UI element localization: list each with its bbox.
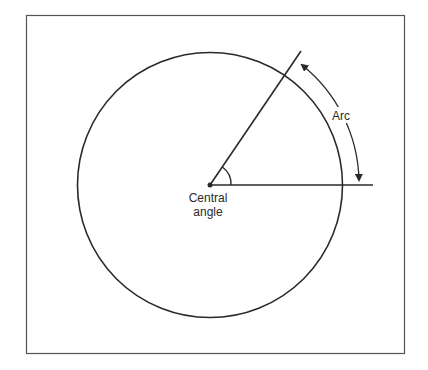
central-angle-diagram: Arc Central angle (0, 0, 428, 370)
arc-label: Arc (332, 109, 350, 123)
radius-line-angled (210, 51, 301, 185)
central-angle-label-line1: Central (189, 191, 228, 205)
center-point (208, 183, 213, 188)
central-angle-label-line2: angle (193, 205, 223, 219)
angle-mark (222, 167, 231, 185)
